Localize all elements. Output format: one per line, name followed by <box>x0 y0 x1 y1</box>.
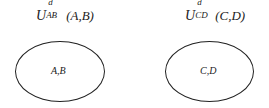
subscript: AB <box>46 10 57 20</box>
args: (A,B) <box>66 8 94 23</box>
set-label-ab: UdAB(A,B) <box>36 6 94 24</box>
superscript: d <box>197 0 202 7</box>
symbol-u: U <box>185 8 195 23</box>
superscript: d <box>48 0 53 7</box>
subscript: CD <box>195 10 208 20</box>
symbol-u: U <box>36 8 46 23</box>
set-label-cd: UdCD(C,D) <box>185 6 245 24</box>
args: (C,D) <box>215 8 245 23</box>
ellipse-ab-content: A,B <box>51 65 66 76</box>
ellipse-cd-content: C,D <box>200 65 216 76</box>
